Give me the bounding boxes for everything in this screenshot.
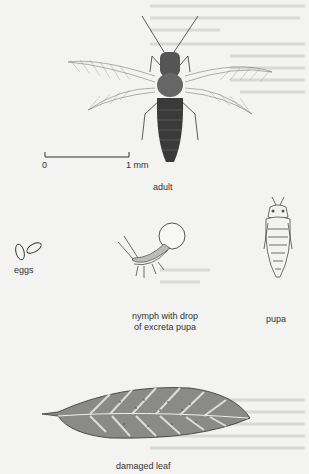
- damaged-leaf-label: damaged leaf: [116, 461, 171, 471]
- adult-label: adult: [153, 182, 173, 192]
- damaged-leaf-illustration: [40, 380, 255, 442]
- pupa-illustration: [258, 195, 298, 285]
- scale-bar: [44, 150, 134, 160]
- nymph-illustration: [112, 220, 192, 292]
- adult-thrips-illustration: [60, 10, 280, 170]
- nymph-label-line1: nymph with drop: [110, 311, 220, 321]
- eggs-label: eggs: [14, 265, 34, 275]
- pupa-label: pupa: [266, 314, 286, 324]
- scale-end-label: 1 mm: [126, 160, 149, 170]
- nymph-label-line2: of excreta pupa: [110, 322, 220, 332]
- eggs-illustration: [12, 240, 44, 264]
- scale-start-label: 0: [42, 160, 47, 170]
